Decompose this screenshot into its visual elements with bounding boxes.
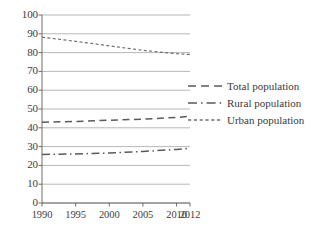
x-axis-label: 1990 — [32, 209, 53, 220]
x-axis-label: 2012 — [180, 209, 201, 220]
x-axis-tick-labels: 199019952000200520102012 — [0, 0, 200, 237]
legend-item-rural-population[interactable]: Rural population — [188, 95, 319, 111]
legend-item-total-population[interactable]: Total population — [188, 78, 319, 94]
x-axis-label: 1995 — [65, 209, 86, 220]
x-axis-label: 2005 — [133, 209, 154, 220]
legend-line-sample-dotted-icon — [188, 115, 222, 125]
legend-line-sample-dashed-icon — [188, 81, 222, 91]
legend-label: Rural population — [227, 97, 301, 109]
legend-label: Urban population — [227, 114, 304, 126]
x-axis-label: 2000 — [99, 209, 120, 220]
line-chart: 1009080706050403020100 19901995200020052… — [0, 0, 319, 237]
chart-legend: Total population Rural population Urban … — [188, 78, 319, 129]
legend-item-urban-population[interactable]: Urban population — [188, 112, 319, 128]
legend-line-sample-dash-dot-icon — [188, 98, 222, 108]
legend-label: Total population — [227, 80, 299, 92]
